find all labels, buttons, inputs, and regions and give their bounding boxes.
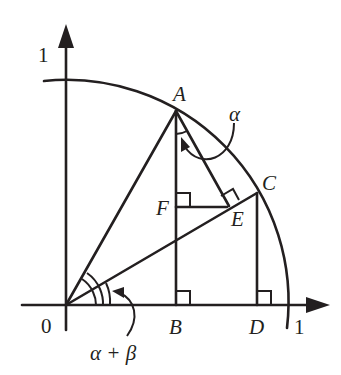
alpha-beta-pointer-arrowhead-icon [112, 287, 124, 298]
angle-beta-arc-inner-icon [106, 283, 110, 305]
right-angle-F-icon [176, 193, 190, 207]
point-B-label: B [169, 315, 182, 339]
right-angle-D-icon [257, 291, 271, 305]
alpha-beta-pointer-icon [120, 293, 134, 336]
point-C-label: C [262, 171, 277, 195]
diagram-svg: 1 0 1 A B C D E F α α + β [0, 0, 341, 375]
alpha-pointer-arrowhead-icon [181, 137, 190, 152]
point-F-label: F [155, 196, 169, 220]
origin-label: 0 [41, 314, 52, 338]
y-axis-arrow-icon [58, 24, 74, 48]
x-axis-arrow-icon [306, 297, 330, 313]
alpha-plus-beta-label: α + β [90, 341, 137, 365]
point-E-label: E [230, 207, 244, 231]
angle-alpha-arc-icon [176, 131, 187, 134]
alpha-label: α [229, 102, 241, 126]
point-D-label: D [248, 315, 264, 339]
y-axis-tick-label: 1 [38, 43, 49, 67]
right-angle-B-icon [176, 291, 190, 305]
x-axis-tick-label: 1 [294, 315, 305, 339]
unit-circle-diagram: 1 0 1 A B C D E F α α + β [0, 0, 341, 375]
point-A-label: A [171, 82, 186, 106]
